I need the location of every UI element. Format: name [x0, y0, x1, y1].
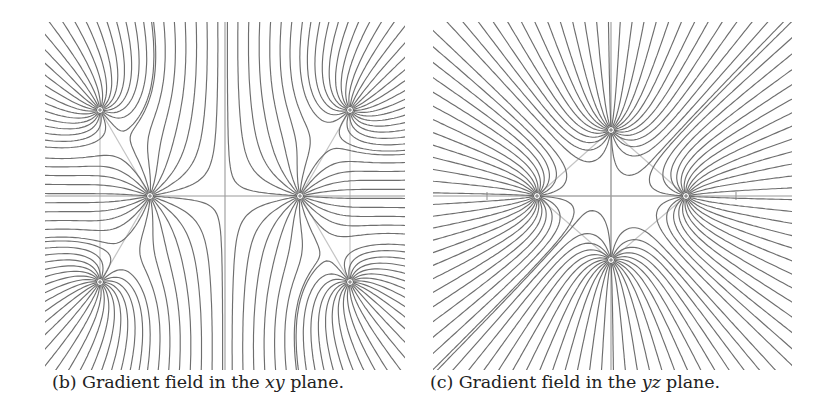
caption-b-label: (b) [52, 372, 77, 392]
panel-b-xy-plane [0, 0, 420, 370]
caption-b-suffix: plane. [290, 372, 344, 392]
caption-c: (c) Gradient field in the yz plane. [430, 372, 720, 392]
caption-c-text: Gradient field in the [459, 372, 637, 392]
gradient-field-yz-plot [420, 0, 833, 370]
gradient-field-xy-plot [0, 0, 420, 370]
caption-c-label: (c) [430, 372, 453, 392]
field-lines [427, 16, 799, 370]
caption-b-text: Gradient field in the [82, 372, 260, 392]
caption-b: (b) Gradient field in the xy plane. [52, 372, 344, 392]
panel-c-yz-plane [420, 0, 833, 370]
caption-c-suffix: plane. [666, 372, 720, 392]
caption-b-var: xy [265, 372, 285, 392]
caption-c-var: yz [642, 372, 661, 392]
